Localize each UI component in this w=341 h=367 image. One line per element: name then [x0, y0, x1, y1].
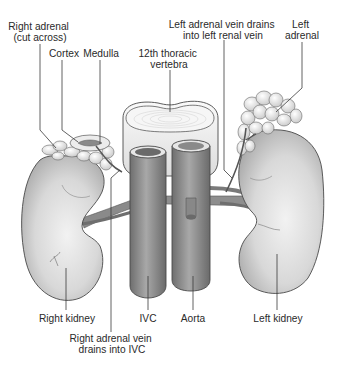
label-cortex: Cortex: [49, 48, 79, 59]
leader-right-adrenal: [40, 44, 56, 148]
label-right-adrenal: Right adrenal (cut across): [8, 21, 71, 43]
left-kidney: [239, 130, 324, 294]
label-left-adrenal-vein: Left adrenal vein drains into left renal…: [169, 19, 278, 41]
leader-left-adrenal-vein: [224, 40, 232, 178]
right-kidney: [22, 156, 104, 301]
aorta-vessel: [172, 140, 210, 291]
label-right-kidney: Right kidney: [39, 313, 96, 324]
label-aorta: Aorta: [181, 313, 206, 324]
leader-right-adrenal-vein: [111, 170, 120, 332]
label-left-adrenal: Left adrenal: [285, 19, 319, 41]
label-left-kidney: Left kidney: [253, 313, 303, 324]
label-ivc: IVC: [140, 313, 157, 324]
label-vertebra: 12th thoracic vertebra: [138, 48, 199, 70]
label-medulla: Medulla: [83, 48, 119, 59]
ivc-vessel: [130, 146, 166, 298]
leader-cortex: [62, 60, 78, 142]
adrenal-anatomy-diagram: Right adrenal (cut across) Cortex Medull…: [0, 0, 341, 367]
label-right-adrenal-vein: Right adrenal vein drains into IVC: [70, 333, 155, 355]
